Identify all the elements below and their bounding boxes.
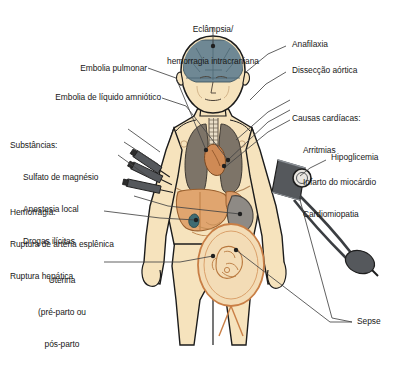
label-eclampsia-line1: Eclâmpsia/ (128, 24, 298, 35)
label-embolia-liquido-amniotico: Embolia de líquido amniótico (0, 92, 161, 103)
label-causas-cardiacas: Causas cardíacas: Arritmias Infarto do m… (292, 92, 376, 240)
label-uterina-line1: Uterina (18, 275, 106, 286)
causas-cardiacas-item-1: Infarto do miocárdio (292, 177, 376, 188)
hemorragia-heading: Hemorragia: (10, 207, 114, 218)
figure-canvas: Eclâmpsia/ hemorragia intracraniana Anaf… (0, 0, 411, 367)
label-eclampsia-line2: hemorragia intracraniana (128, 56, 298, 67)
label-eclampsia: Eclâmpsia/ hemorragia intracraniana (128, 3, 298, 88)
label-embolia-pulmonar: Embolia pulmonar (0, 63, 147, 74)
label-uterina-line3: pós-parto (18, 339, 106, 350)
label-uterina: Uterina (pré-parto ou pós-parto (18, 254, 106, 367)
label-disseccao-aortica: Dissecção aórtica (292, 65, 357, 76)
label-anafilaxia: Anafilaxia (292, 39, 328, 50)
label-uterina-line2: (pré-parto ou (18, 307, 106, 318)
substancias-item-0: Sulfato de magnésio (10, 172, 98, 183)
causas-cardiacas-item-2: Cardiomiopatia (292, 209, 376, 220)
inflation-bulb (342, 246, 378, 278)
causas-cardiacas-heading: Causas cardíacas: (292, 113, 376, 124)
hemorragia-item-0: Ruptura de artéria esplênica (10, 239, 114, 250)
label-sepse: Sepse (357, 316, 381, 327)
label-hipoglicemia: Hipoglicemia (331, 152, 378, 163)
substancias-heading: Substâncias: (10, 140, 98, 151)
